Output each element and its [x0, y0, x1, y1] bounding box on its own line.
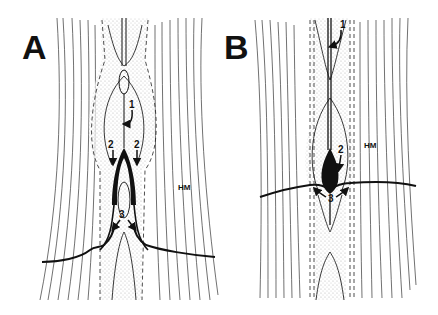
muscle-fibers-left-b — [255, 20, 300, 298]
panel-a: 1 2 2 3 HM — [40, 18, 218, 300]
panel-label-a: A — [22, 30, 47, 64]
label-2-right-a: 2 — [134, 139, 140, 150]
panel-label-b: B — [224, 30, 249, 64]
label-1-a: 1 — [129, 99, 135, 110]
label-1-b: 1 — [340, 19, 346, 30]
label-2-left-a: 2 — [108, 139, 114, 150]
diagram-svg: 1 2 2 3 HM — [0, 0, 438, 315]
label-3-b: 3 — [328, 193, 334, 204]
label-3-a: 3 — [119, 209, 125, 220]
diagram-figure: A B — [0, 0, 438, 315]
label-2-b: 2 — [338, 144, 344, 155]
muscle-fibers-right-b — [360, 18, 416, 298]
muscle-fibers-right-a — [155, 18, 218, 300]
muscle-fibers-left-a — [40, 18, 95, 300]
panel-b: 1 2 3 HM — [255, 18, 416, 300]
hm-label-b: HM — [364, 141, 377, 150]
hm-label-a: HM — [178, 183, 191, 192]
